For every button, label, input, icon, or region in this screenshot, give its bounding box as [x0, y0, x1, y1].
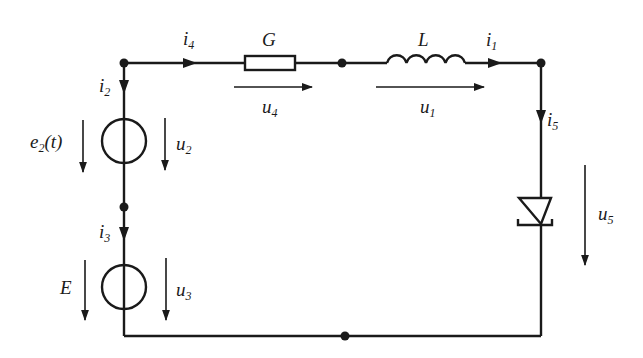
current-arrow-i3 — [119, 227, 129, 241]
label-u2: u2 — [176, 133, 192, 157]
label-u4: u4 — [262, 96, 278, 120]
node-top-mid — [338, 59, 347, 68]
inductor-l-symbol — [387, 55, 465, 63]
node-left-mid — [120, 203, 129, 212]
label-e2: e2(t) — [30, 131, 62, 155]
label-l: L — [417, 29, 429, 50]
label-i5: i5 — [547, 109, 558, 133]
label-u3: u3 — [176, 279, 192, 303]
label-i1: i1 — [486, 29, 497, 53]
label-u1: u1 — [420, 96, 436, 120]
label-g: G — [262, 29, 276, 50]
label-i2: i2 — [99, 75, 110, 99]
diode-symbol — [518, 198, 552, 225]
current-arrow-i5 — [536, 110, 546, 124]
node-top-left — [120, 59, 129, 68]
label-E: E — [59, 277, 72, 298]
label-u5: u5 — [598, 203, 614, 227]
current-arrow-i2 — [119, 80, 129, 94]
label-i3: i3 — [99, 221, 110, 245]
voltage-arrows — [83, 87, 585, 320]
circuit-diagram: G L i4 i1 i2 i3 i5 u4 u1 u2 u3 u5 e2(t) … — [0, 0, 643, 358]
node-bottom-mid — [341, 332, 350, 341]
label-i4: i4 — [183, 28, 194, 52]
current-arrow-i1 — [488, 58, 502, 68]
current-arrow-i4 — [183, 58, 197, 68]
circuit-svg: G L i4 i1 i2 i3 i5 u4 u1 u2 u3 u5 e2(t) … — [0, 0, 643, 358]
node-top-right — [537, 59, 546, 68]
conductance-g-symbol — [245, 56, 295, 70]
labels: G L i4 i1 i2 i3 i5 u4 u1 u2 u3 u5 e2(t) … — [30, 28, 614, 303]
